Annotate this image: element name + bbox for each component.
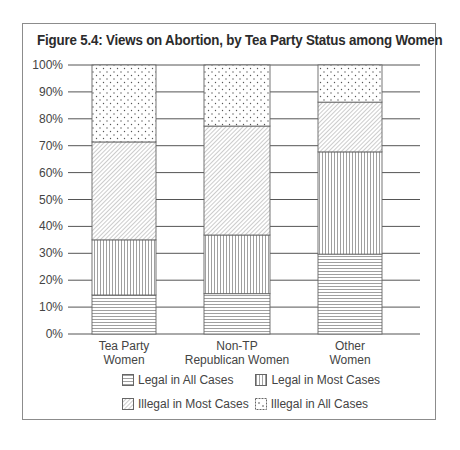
legend-label: Illegal in Most Cases	[138, 397, 249, 411]
x-tick-label: OtherWomen	[285, 339, 415, 367]
stacked-bar	[92, 65, 156, 334]
legend-item-legal-most: Legal in Most Cases	[255, 373, 380, 387]
bar-segment	[318, 254, 382, 334]
bar-segment	[92, 240, 156, 295]
dots-swatch-icon	[255, 398, 267, 410]
y-tick-label: 20%	[39, 273, 63, 287]
y-axis-ticks: 0%10%20%30%40%50%60%70%80%90%100%	[32, 58, 63, 341]
legend-label: Illegal in All Cases	[271, 397, 368, 411]
y-tick-label: 60%	[39, 166, 63, 180]
bar-segment	[204, 65, 270, 126]
diagonal-lines-swatch-icon	[122, 398, 134, 410]
legend-label: Legal in All Cases	[138, 373, 233, 387]
y-tick-label: 90%	[39, 85, 63, 99]
bar-segment	[204, 294, 270, 334]
y-tick-label: 80%	[39, 112, 63, 126]
bar-segment	[318, 102, 382, 152]
legend-row-1: Legal in All Cases Legal in Most Cases	[122, 373, 394, 387]
y-tick-label: 30%	[39, 246, 63, 260]
legend-label: Legal in Most Cases	[271, 373, 380, 387]
bar-segment	[92, 295, 156, 334]
y-tick-label: 70%	[39, 139, 63, 153]
legend-item-illegal-most: Illegal in Most Cases	[122, 397, 249, 411]
bars	[92, 65, 382, 334]
stacked-bar	[204, 65, 270, 334]
vertical-lines-swatch-icon	[255, 374, 267, 386]
legend-item-legal-all: Legal in All Cases	[122, 373, 233, 387]
y-tick-label: 100%	[32, 58, 63, 72]
bar-segment	[92, 65, 156, 142]
y-tick-label: 50%	[39, 193, 63, 207]
bar-segment	[92, 142, 156, 240]
stacked-bar	[318, 65, 382, 334]
y-tick-label: 10%	[39, 300, 63, 314]
x-tick-label: Non-TPRepublican Women	[172, 339, 302, 367]
horizontal-lines-swatch-icon	[122, 374, 134, 386]
bar-segment	[204, 235, 270, 294]
bar-segment	[318, 65, 382, 102]
y-tick-label: 40%	[39, 219, 63, 233]
bar-segment	[204, 126, 270, 235]
bar-segment	[318, 152, 382, 254]
legend-item-illegal-all: Illegal in All Cases	[255, 397, 368, 411]
x-tick-label: Tea PartyWomen	[59, 339, 189, 367]
legend-row-2: Illegal in Most Cases Illegal in All Cas…	[122, 397, 382, 411]
